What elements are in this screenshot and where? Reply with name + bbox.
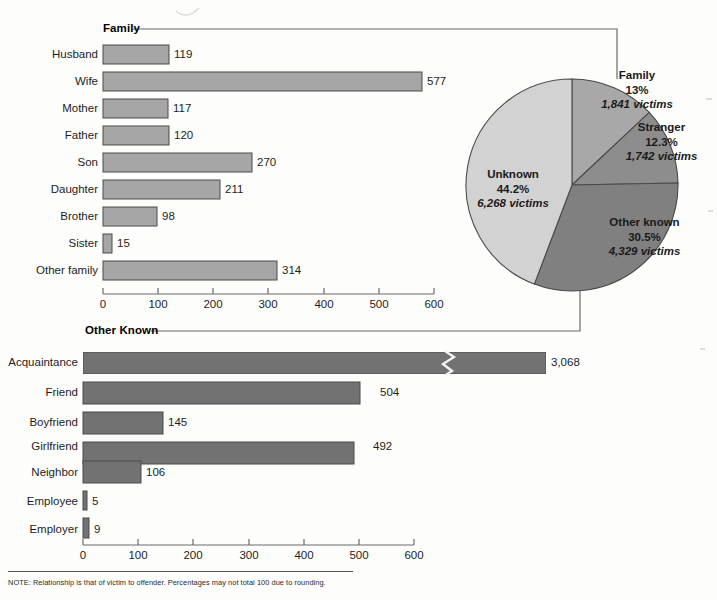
bar-mother: [103, 99, 168, 118]
family-x-axis: [103, 288, 434, 294]
category-label-sister: Sister: [0, 238, 98, 250]
category-label-husband: Husband: [0, 49, 98, 61]
category-label-brother: Brother: [0, 211, 98, 223]
pie-label-stranger-percent: 12.3%: [604, 135, 717, 150]
xtick-label-other-known-300: 300: [229, 550, 269, 562]
bar-husband: [103, 45, 169, 64]
xtick-label-other-known-0: 0: [63, 550, 103, 562]
bar-neighbor: [83, 461, 141, 483]
value-label-son: 270: [257, 157, 276, 169]
xtick-label-family-400: 400: [304, 299, 344, 311]
pie-label-unknown: Unknown 44.2% 6,268 victims: [453, 167, 573, 211]
value-label-brother: 98: [162, 211, 175, 223]
bar-son: [103, 153, 252, 172]
value-label-friend: 504: [380, 387, 399, 399]
value-label-sister: 15: [117, 238, 130, 250]
category-label-girlfriend: Girlfriend: [0, 441, 78, 453]
category-label-friend: Friend: [0, 387, 78, 399]
figure-note: NOTE: Relationship is that of victim to …: [8, 578, 326, 587]
value-label-father: 120: [174, 130, 193, 142]
value-label-acquaintance: 3,068: [551, 357, 580, 369]
bar-father: [103, 126, 169, 145]
other-known-bars: [83, 351, 546, 538]
bar-brother: [103, 207, 157, 226]
bar-boyfriend: [83, 412, 163, 434]
scan-artifacts: [176, 8, 199, 15]
bar-sister: [103, 234, 112, 253]
value-label-other-family: 314: [282, 265, 301, 277]
pie-label-stranger: Stranger 12.3% 1,742 victims: [604, 120, 717, 164]
xtick-label-other-known-400: 400: [284, 550, 324, 562]
value-label-husband: 119: [174, 49, 192, 61]
category-label-acquaintance: Acquaintance: [0, 357, 78, 369]
category-label-son: Son: [0, 157, 98, 169]
category-label-employer: Employer: [0, 524, 78, 536]
xtick-label-family-200: 200: [193, 299, 233, 311]
category-label-wife: Wife: [0, 76, 98, 88]
value-label-employee: 5: [92, 496, 98, 508]
panel-title-other-known: Other Known: [85, 325, 158, 337]
category-label-daughter: Daughter: [0, 184, 98, 196]
pie-label-stranger-victims: 1,742 victims: [604, 149, 717, 164]
value-label-neighbor: 106: [146, 467, 165, 479]
xtick-label-family-600: 600: [414, 299, 454, 311]
xtick-label-family-500: 500: [359, 299, 399, 311]
value-label-wife: 577: [427, 76, 446, 88]
bar-daughter: [103, 180, 220, 199]
bar-acquaintance: [83, 352, 546, 374]
pie-label-unknown-victims: 6,268 victims: [453, 196, 573, 211]
category-label-other-family: Other family: [0, 265, 98, 277]
category-label-employee: Employee: [0, 496, 78, 508]
xtick-label-family-300: 300: [248, 299, 288, 311]
category-label-boyfriend: Boyfriend: [0, 417, 78, 429]
xtick-label-other-known-100: 100: [118, 550, 158, 562]
pie-label-unknown-percent: 44.2%: [453, 182, 573, 197]
category-label-neighbor: Neighbor: [0, 467, 78, 479]
pie-label-family-victims: 1,841 victims: [572, 97, 702, 112]
bar-employer: [83, 518, 89, 538]
xtick-label-family-100: 100: [138, 299, 178, 311]
xtick-label-other-known-200: 200: [173, 550, 213, 562]
bar-other-family: [103, 261, 277, 280]
bar-friend: [83, 382, 360, 404]
pie-label-stranger-name: Stranger: [604, 120, 717, 135]
bar-employee: [83, 491, 87, 510]
relationship-of-victim-to-offender-figure: Family Other Known Husband Wife Mother F…: [0, 0, 717, 600]
category-label-mother: Mother: [0, 103, 98, 115]
pie-label-family: Family 13% 1,841 victims: [572, 68, 702, 112]
pie-label-family-percent: 13%: [572, 83, 702, 98]
value-label-employer: 9: [94, 524, 100, 536]
pie-label-other-known-victims: 4,329 victims: [582, 244, 707, 259]
pie-label-unknown-name: Unknown: [453, 167, 573, 182]
value-label-boyfriend: 145: [168, 417, 187, 429]
category-label-father: Father: [0, 130, 98, 142]
pie-label-other-known: Other known 30.5% 4,329 victims: [582, 215, 707, 259]
xtick-label-other-known-600: 600: [394, 550, 434, 562]
bar-wife: [103, 72, 422, 91]
value-label-girlfriend: 492: [373, 441, 392, 453]
other-known-x-axis: [83, 539, 414, 545]
value-label-daughter: 211: [225, 184, 243, 196]
pie-label-other-known-percent: 30.5%: [582, 230, 707, 245]
xtick-label-other-known-500: 500: [339, 550, 379, 562]
value-label-mother: 117: [173, 103, 191, 115]
note-divider: [8, 571, 353, 572]
xtick-label-family-0: 0: [83, 299, 123, 311]
connector-other-known-to-pie: [151, 291, 580, 331]
pie-label-other-known-name: Other known: [582, 215, 707, 230]
panel-title-family: Family: [103, 23, 140, 35]
pie-label-family-name: Family: [572, 68, 702, 83]
